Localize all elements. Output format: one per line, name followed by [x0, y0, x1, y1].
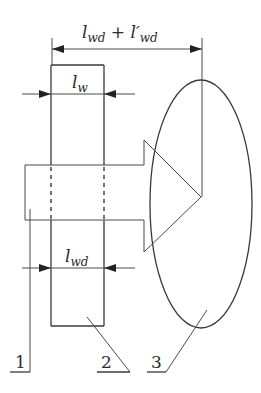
- arrow-lw-right-icon: [104, 90, 116, 98]
- part-label-3: 3: [151, 352, 162, 372]
- part-label-2: 2: [101, 352, 112, 372]
- part-label-1: 1: [15, 352, 26, 372]
- arrow-lw-left-icon: [39, 90, 51, 98]
- arrow-lwd-left-icon: [39, 264, 51, 272]
- arrow-right-icon: [190, 45, 202, 53]
- ellipse-part-3: [150, 80, 252, 328]
- dim-label-lw: lw: [72, 72, 88, 95]
- weld-diagram: lwd + l′wd lw lwd 1 2 3: [0, 0, 261, 393]
- arrow-left-icon: [52, 45, 64, 53]
- leader-3: [166, 310, 207, 372]
- arrow-lwd-right-icon: [104, 264, 116, 272]
- dim-label-total: lwd + l′wd: [82, 22, 158, 45]
- dim-label-lwd: lwd: [65, 246, 89, 269]
